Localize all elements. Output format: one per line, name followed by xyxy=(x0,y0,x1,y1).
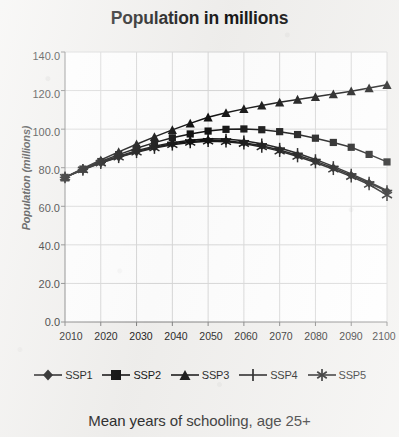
population-projection-chart: Population in millions Population (milli… xyxy=(0,0,399,437)
legend-marker-diamond-icon xyxy=(33,368,63,382)
chart-legend: SSP1 SSP2 SSP3 SSP4 xyxy=(0,368,399,382)
legend-item-ssp5: SSP5 xyxy=(307,368,366,382)
legend-item-ssp1: SSP1 xyxy=(33,368,92,382)
legend-marker-plus-icon xyxy=(238,368,268,382)
legend-label-ssp5: SSP5 xyxy=(339,369,366,381)
legend-marker-asterisk-icon xyxy=(307,368,337,382)
legend-marker-triangle-icon xyxy=(170,368,200,382)
figure-caption: Mean years of schooling, age 25+ xyxy=(0,412,399,437)
legend-marker-square-icon xyxy=(101,368,131,382)
legend-item-ssp3: SSP3 xyxy=(170,368,229,382)
legend-item-ssp4: SSP4 xyxy=(238,368,297,382)
legend-label-ssp2: SSP2 xyxy=(133,369,160,381)
legend-label-ssp1: SSP1 xyxy=(65,369,92,381)
legend-label-ssp4: SSP4 xyxy=(270,369,297,381)
legend-item-ssp2: SSP2 xyxy=(101,368,160,382)
legend-label-ssp3: SSP3 xyxy=(202,369,229,381)
